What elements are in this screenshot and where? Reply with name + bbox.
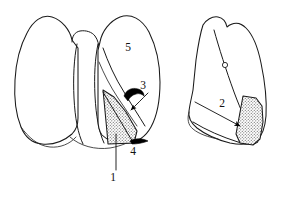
label-2-text: 2: [219, 97, 225, 109]
label-4-wedge-mark: [130, 139, 148, 144]
label-4-text: 4: [130, 145, 136, 157]
label-3-text: 3: [140, 79, 146, 91]
fissure-marker-circle: [222, 62, 227, 67]
left-lung-outline: [15, 16, 78, 144]
label-1-text: 1: [110, 171, 116, 183]
lung-diagram-figure: 1 3 4 5 2: [0, 0, 287, 197]
anterior-view-both-lungs: 1 3 4 5: [15, 16, 160, 183]
lateral-view-right-lung: 2: [188, 17, 266, 145]
label-5-text: 5: [125, 41, 131, 53]
diagram-canvas: 1 3 4 5 2: [0, 0, 287, 197]
